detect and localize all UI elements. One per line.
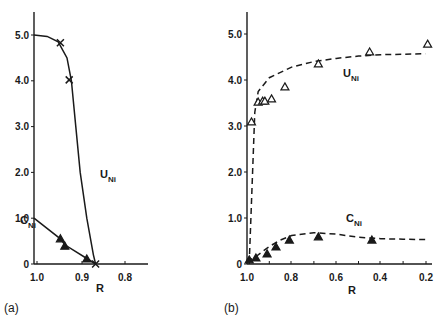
series-label-u-ni: UNi	[100, 168, 116, 184]
filled-triangle-marker-icon	[61, 242, 69, 249]
x-tick-label: 0.4	[373, 272, 387, 283]
open-triangle-marker-icon	[366, 48, 374, 55]
y-tick-label: 2.0	[228, 167, 242, 178]
open-triangle-marker-icon	[424, 40, 432, 47]
chart-panel-b: 01.02.03.04.05.01.00.80.60.40.2R(b)UNiCN…	[224, 12, 433, 315]
series-line-u-ni	[249, 54, 425, 264]
figure: 01.02.03.04.05.01.00.90.8R(a)UNiCNi01.02…	[0, 0, 442, 319]
x-tick-label: 0.8	[284, 272, 298, 283]
y-tick-label: 0	[23, 259, 29, 270]
x-tick-label: 1.0	[240, 272, 254, 283]
x-axis-label: R	[96, 282, 104, 294]
panel-label: (a)	[4, 301, 19, 315]
open-triangle-marker-icon	[281, 83, 289, 90]
y-tick-label: 5.0	[228, 29, 242, 40]
x-tick-label: 0.2	[419, 272, 433, 283]
y-tick-label: 2.0	[15, 167, 29, 178]
panel-label: (b)	[224, 301, 239, 315]
y-tick-label: 1.0	[228, 213, 242, 224]
x-tick-label: 0.6	[329, 272, 343, 283]
x-tick-label: 0.8	[118, 272, 132, 283]
series-label-c-ni: CNi	[346, 212, 362, 228]
y-tick-label: 0	[236, 259, 242, 270]
chart-panel-a: 01.02.03.04.05.01.00.90.8R(a)UNiCNi	[4, 12, 148, 315]
x-tick-label: 0.9	[75, 272, 89, 283]
series-line-u-ni	[34, 35, 96, 264]
y-tick-label: 4.0	[15, 75, 29, 86]
filled-triangle-marker-icon	[368, 236, 376, 243]
y-tick-label: 3.0	[15, 121, 29, 132]
filled-triangle-marker-icon	[285, 236, 293, 243]
x-axis-label: R	[348, 284, 356, 296]
series-label-u-ni: UNi	[343, 67, 359, 83]
y-tick-label: 5.0	[15, 30, 29, 41]
y-tick-label: 3.0	[228, 121, 242, 132]
y-tick-label: 4.0	[228, 75, 242, 86]
open-triangle-marker-icon	[268, 95, 276, 102]
filled-triangle-marker-icon	[314, 233, 322, 240]
x-tick-label: 1.0	[30, 272, 44, 283]
